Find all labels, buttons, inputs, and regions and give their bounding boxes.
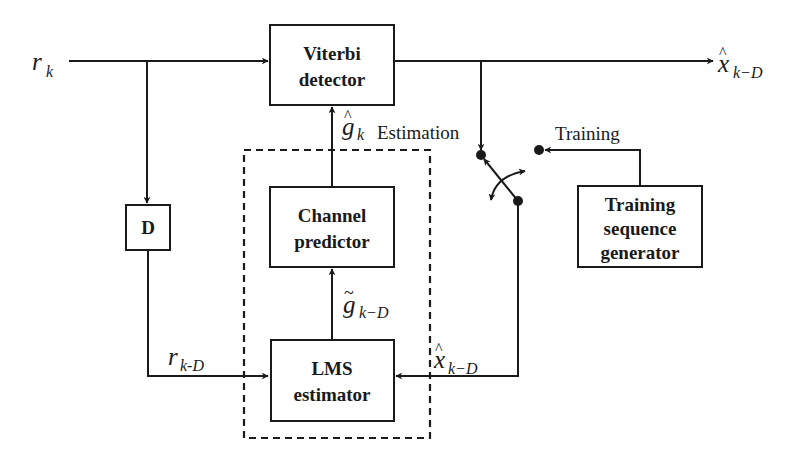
- channel-predictor-label-line2: predictor: [294, 231, 370, 252]
- estimation-mode-label: Estimation: [377, 122, 460, 143]
- output-signal-accent: ^: [719, 44, 727, 61]
- adaptive-channel-estimation-diagram: r k Viterbi detector x ^ k−D D r k-D Cha…: [0, 0, 794, 467]
- delayed-input-base: r: [168, 343, 178, 370]
- delay-label: D: [141, 217, 155, 238]
- g-tilde-accent: ~: [344, 283, 354, 303]
- delayed-input-to-lms-arrow: [148, 250, 268, 376]
- lms-estimator-block: LMS estimator: [271, 340, 394, 421]
- g-tilde-label: g ~ k−D: [343, 283, 389, 321]
- switch-to-lms-arrow: [396, 201, 518, 376]
- x-hat-feedback-label: x ^ k−D: [433, 340, 478, 377]
- g-hat-accent: ^: [344, 107, 352, 124]
- training-to-switch-arrow: [545, 150, 640, 186]
- viterbi-label-line1: Viterbi: [303, 43, 360, 64]
- mode-switch: [476, 145, 544, 206]
- x-hat-feedback-subscript: k−D: [448, 360, 478, 377]
- switch-training-contact: [534, 145, 544, 155]
- viterbi-label-line2: detector: [299, 69, 366, 90]
- training-generator-label-line3: generator: [600, 242, 680, 263]
- g-hat-subscript: k: [357, 126, 365, 143]
- delayed-input-subscript: k-D: [180, 357, 204, 374]
- training-generator-label-line2: sequence: [604, 218, 677, 239]
- channel-predictor-block: Channel predictor: [270, 187, 394, 267]
- output-signal-label: x ^: [717, 44, 729, 77]
- input-signal-subscript: k: [46, 63, 54, 80]
- input-signal-label: r k: [32, 48, 54, 80]
- viterbi-detector-block: Viterbi detector: [270, 25, 394, 105]
- training-mode-label: Training: [555, 123, 620, 144]
- delay-block: D: [126, 205, 170, 250]
- x-hat-feedback-accent: ^: [435, 340, 443, 357]
- training-generator-label-line1: Training: [605, 194, 676, 215]
- channel-predictor-label-line1: Channel: [298, 205, 367, 226]
- g-tilde-subscript: k−D: [359, 304, 389, 321]
- delayed-input-label: r k-D: [168, 343, 204, 374]
- lms-label-line1: LMS: [311, 358, 352, 379]
- training-sequence-generator-block: Training sequence generator: [578, 186, 702, 267]
- lms-label-line2: estimator: [293, 384, 371, 405]
- switch-estimation-contact: [476, 150, 486, 160]
- output-signal-subscript: k−D: [733, 64, 763, 81]
- input-signal-base: r: [32, 48, 42, 75]
- g-hat-label: g ^ k: [342, 107, 365, 143]
